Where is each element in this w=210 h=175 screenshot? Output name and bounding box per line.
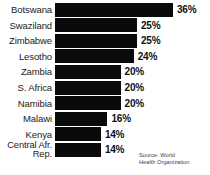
- table-row: Zimbabwe25%: [0, 33, 210, 50]
- bar-group: 36%: [55, 3, 196, 17]
- category-label: S. Africa: [0, 83, 52, 93]
- bar: [55, 127, 101, 141]
- table-row: S. Africa20%: [0, 80, 210, 97]
- bar: [55, 18, 137, 32]
- bar-group: 14%: [55, 143, 124, 157]
- source-attribution: Source: World Health Organization: [139, 152, 189, 166]
- category-label: Malawi: [0, 114, 52, 124]
- table-row: Malawi16%: [0, 111, 210, 128]
- bar-chart: Botswana36%Swaziland25%Zimbabwe25%Lesoth…: [0, 0, 210, 175]
- bar: [55, 3, 173, 17]
- table-row: Lesotho24%: [0, 48, 210, 65]
- bar: [55, 96, 121, 110]
- bar-group: 20%: [55, 81, 144, 95]
- bar-group: 25%: [55, 34, 160, 48]
- table-row: Namibia20%: [0, 95, 210, 112]
- category-label: Central Afr. Rep.: [0, 141, 52, 160]
- bar-value-label: 20%: [125, 98, 144, 109]
- category-label: Botswana: [0, 5, 52, 15]
- category-label: Swaziland: [0, 21, 52, 31]
- bar-group: 20%: [55, 65, 144, 79]
- bar-group: 14%: [55, 127, 124, 141]
- bar: [55, 65, 121, 79]
- category-label: Lesotho: [0, 52, 52, 62]
- bar-value-label: 14%: [105, 129, 124, 140]
- bar: [55, 81, 121, 95]
- bar-value-label: 20%: [125, 82, 144, 93]
- table-row: Botswana36%: [0, 2, 210, 19]
- category-label: Namibia: [0, 99, 52, 109]
- category-label: Kenya: [0, 130, 52, 140]
- table-row: Swaziland25%: [0, 17, 210, 34]
- bar-group: 25%: [55, 18, 160, 32]
- bar: [55, 112, 107, 126]
- bar-group: 24%: [55, 49, 157, 63]
- bar-value-label: 25%: [141, 20, 160, 31]
- bar: [55, 49, 134, 63]
- bar-value-label: 36%: [177, 4, 196, 15]
- bar-value-label: 24%: [138, 51, 157, 62]
- bar-value-label: 16%: [111, 113, 130, 124]
- category-label: Zimbabwe: [0, 36, 52, 46]
- bar: [55, 34, 137, 48]
- bar-group: 20%: [55, 96, 144, 110]
- bar-group: 16%: [55, 112, 131, 126]
- bar: [55, 143, 101, 157]
- category-label: Zambia: [0, 67, 52, 77]
- chart-rows: Botswana36%Swaziland25%Zimbabwe25%Lesoth…: [0, 0, 210, 175]
- bar-value-label: 14%: [105, 144, 124, 155]
- bar-value-label: 25%: [141, 35, 160, 46]
- bar-value-label: 20%: [125, 66, 144, 77]
- table-row: Zambia20%: [0, 64, 210, 81]
